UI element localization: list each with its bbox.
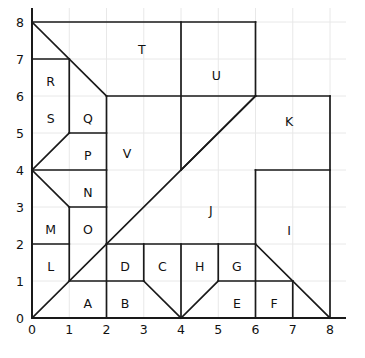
region-label-H: H <box>195 259 204 274</box>
x-tick-label-3: 3 <box>140 322 148 337</box>
region-label-V: V <box>123 146 132 161</box>
region-label-T: T <box>137 42 146 57</box>
y-tick-label-1: 1 <box>16 274 24 289</box>
region-label-N: N <box>83 185 92 200</box>
region-label-M: M <box>45 222 56 237</box>
region-label-Q: Q <box>83 111 93 126</box>
region-label-B: B <box>121 296 130 311</box>
partition-segment-s-diagonal <box>32 133 69 170</box>
region-label-L: L <box>47 259 54 274</box>
y-tick-label-5: 5 <box>16 126 24 141</box>
x-tick-label-8: 8 <box>326 322 334 337</box>
x-axis-tick-labels: 012345678 <box>28 322 334 337</box>
x-tick-label-1: 1 <box>65 322 73 337</box>
region-label-K: K <box>285 114 294 129</box>
y-tick-label-8: 8 <box>16 15 24 30</box>
region-label-A: A <box>84 296 93 311</box>
region-label-D: D <box>120 259 130 274</box>
y-axis-tick-labels: 012345678 <box>16 15 24 326</box>
region-label-C: C <box>158 259 167 274</box>
y-tick-label-6: 6 <box>16 89 24 104</box>
y-tick-label-3: 3 <box>16 200 24 215</box>
region-label-G: G <box>232 259 242 274</box>
partition-diagram-figure: 012345678 012345678 ABCDEFGHIJKLMNOPQRST… <box>0 0 365 358</box>
region-label-J: J <box>208 203 213 218</box>
region-label-S: S <box>47 111 55 126</box>
region-label-E: E <box>233 296 241 311</box>
x-tick-label-4: 4 <box>177 322 185 337</box>
x-tick-label-5: 5 <box>214 322 222 337</box>
diagram-canvas: 012345678 012345678 ABCDEFGHIJKLMNOPQRST… <box>0 0 365 358</box>
x-tick-label-6: 6 <box>252 322 260 337</box>
x-tick-label-2: 2 <box>103 322 111 337</box>
region-label-R: R <box>46 74 55 89</box>
y-tick-label-4: 4 <box>16 163 24 178</box>
partition-segment-h-diagonal <box>181 281 218 318</box>
region-label-U: U <box>212 68 221 83</box>
partition-segments <box>32 22 330 318</box>
region-label-P: P <box>84 148 92 163</box>
region-label-O: O <box>83 222 93 237</box>
x-tick-label-0: 0 <box>28 322 36 337</box>
partition-segment-m-diagonal <box>32 170 69 207</box>
region-label-F: F <box>271 296 278 311</box>
region-label-I: I <box>287 223 291 238</box>
partition-segment-c-diagonal <box>144 281 181 318</box>
region-labels: ABCDEFGHIJKLMNOPQRSTUV <box>45 42 294 310</box>
y-tick-label-7: 7 <box>16 52 24 67</box>
x-tick-label-7: 7 <box>289 322 297 337</box>
y-tick-label-0: 0 <box>16 311 24 326</box>
y-tick-label-2: 2 <box>16 237 24 252</box>
